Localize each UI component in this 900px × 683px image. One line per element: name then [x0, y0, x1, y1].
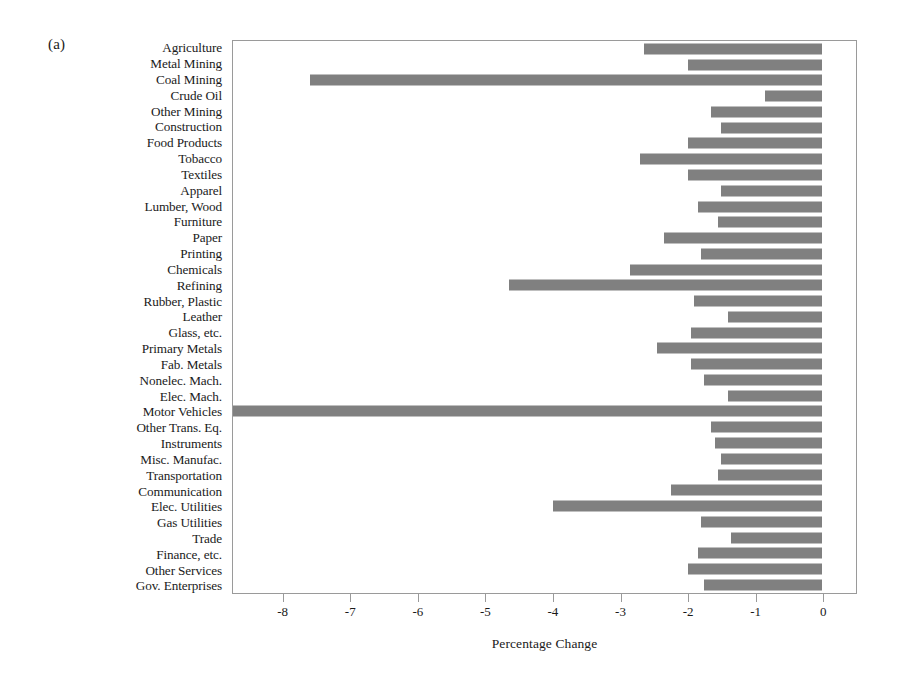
- bar-row: [233, 88, 856, 104]
- bar: [671, 485, 823, 496]
- category-label: Motor Vehicles: [60, 404, 226, 420]
- bar-row: [233, 577, 856, 593]
- category-label: Construction: [60, 119, 226, 135]
- bar: [721, 185, 822, 196]
- bar-row: [233, 136, 856, 152]
- bar: [657, 343, 822, 354]
- bar-row: [233, 214, 856, 230]
- bar-row: [233, 514, 856, 530]
- x-tick: [756, 594, 757, 602]
- bar-row: [233, 104, 856, 120]
- x-axis-title: Percentage Change: [232, 636, 857, 652]
- bar: [509, 280, 822, 291]
- bar: [688, 564, 823, 575]
- bar: [698, 548, 823, 559]
- x-tick-label: 0: [820, 604, 827, 620]
- bar: [728, 390, 822, 401]
- bar-row: [233, 57, 856, 73]
- plot-area: [232, 40, 857, 594]
- x-tick-label: -6: [412, 604, 423, 620]
- x-axis: -8-7-6-5-4-3-2-10: [232, 594, 857, 604]
- category-label: Paper: [60, 230, 226, 246]
- bar: [715, 438, 823, 449]
- x-tick: [553, 594, 554, 602]
- bar: [694, 296, 822, 307]
- bar-row: [233, 246, 856, 262]
- bar: [688, 59, 823, 70]
- x-tick: [688, 594, 689, 602]
- bar-row: [233, 293, 856, 309]
- bar-row: [233, 451, 856, 467]
- bar-row: [233, 341, 856, 357]
- category-label: Gov. Enterprises: [60, 578, 226, 594]
- category-label: Metal Mining: [60, 56, 226, 72]
- figure-panel-a: (a) AgricultureMetal MiningCoal MiningCr…: [0, 0, 900, 683]
- x-tick: [823, 594, 824, 602]
- category-label: Furniture: [60, 214, 226, 230]
- category-label: Gas Utilities: [60, 515, 226, 531]
- bar: [728, 311, 822, 322]
- category-label: Printing: [60, 246, 226, 262]
- bar: [718, 217, 822, 228]
- bar-row: [233, 435, 856, 451]
- category-label: Primary Metals: [60, 341, 226, 357]
- bar-row: [233, 167, 856, 183]
- bar-row: [233, 120, 856, 136]
- bar-row: [233, 262, 856, 278]
- bar: [698, 201, 823, 212]
- category-label: Coal Mining: [60, 72, 226, 88]
- category-label: Other Services: [60, 562, 226, 578]
- category-label: Elec. Utilities: [60, 499, 226, 515]
- bar: [233, 406, 822, 417]
- bar-row: [233, 467, 856, 483]
- x-tick-label: -1: [750, 604, 761, 620]
- bar-row: [233, 404, 856, 420]
- x-tick: [350, 594, 351, 602]
- category-label: Misc. Manufac.: [60, 452, 226, 468]
- bar: [640, 154, 822, 165]
- bar-row: [233, 151, 856, 167]
- x-tick: [418, 594, 419, 602]
- category-label: Lumber, Wood: [60, 198, 226, 214]
- category-label: Textiles: [60, 167, 226, 183]
- x-tick-label: -5: [480, 604, 491, 620]
- category-label: Crude Oil: [60, 87, 226, 103]
- bar-row: [233, 419, 856, 435]
- bar: [664, 233, 822, 244]
- category-label: Communication: [60, 483, 226, 499]
- x-tick: [283, 594, 284, 602]
- x-tick: [485, 594, 486, 602]
- bar: [704, 579, 822, 590]
- bar: [765, 91, 822, 102]
- bar-row: [233, 498, 856, 514]
- bar: [691, 359, 822, 370]
- category-label: Chemicals: [60, 262, 226, 278]
- bar-row: [233, 199, 856, 215]
- x-tick-label: -2: [683, 604, 694, 620]
- bar-row: [233, 561, 856, 577]
- category-label: Instruments: [60, 436, 226, 452]
- bar: [731, 532, 822, 543]
- category-label: Refining: [60, 277, 226, 293]
- bar: [688, 138, 823, 149]
- category-label: Leather: [60, 309, 226, 325]
- category-label: Other Mining: [60, 103, 226, 119]
- category-label: Fab. Metals: [60, 357, 226, 373]
- bar: [718, 469, 822, 480]
- bar: [721, 122, 822, 133]
- category-label: Food Products: [60, 135, 226, 151]
- bar: [701, 516, 822, 527]
- bar-row: [233, 530, 856, 546]
- bar-row: [233, 277, 856, 293]
- category-axis-labels: AgricultureMetal MiningCoal MiningCrude …: [60, 40, 226, 594]
- category-label: Other Trans. Eq.: [60, 420, 226, 436]
- bar-row: [233, 41, 856, 57]
- bar-row: [233, 356, 856, 372]
- bar-row: [233, 309, 856, 325]
- bar-row: [233, 183, 856, 199]
- category-label: Transportation: [60, 467, 226, 483]
- x-tick-label: -4: [548, 604, 559, 620]
- bar: [704, 374, 822, 385]
- bar: [553, 501, 822, 512]
- category-label: Agriculture: [60, 40, 226, 56]
